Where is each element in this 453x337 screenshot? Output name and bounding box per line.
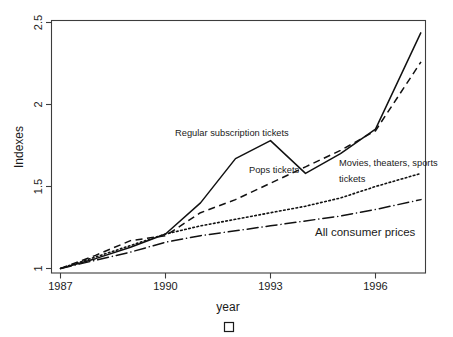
x-tick-label-1993: 1993: [258, 280, 282, 292]
x-axis-ticks: [61, 273, 376, 279]
x-tick-label-1987: 1987: [48, 280, 72, 292]
y-axis-tick-labels: 2.5 2 1.5 1: [32, 15, 44, 272]
y-tick-label-1: 1: [32, 265, 44, 271]
series-label-pops-tickets: Pops tickets: [249, 165, 299, 175]
y-tick-label-2: 2: [32, 101, 44, 107]
y-axis-ticks: [46, 23, 52, 269]
series-label-movies-theaters-sports-line2: tickets: [339, 174, 366, 184]
x-tick-label-1990: 1990: [153, 280, 177, 292]
series-line-movies-theaters-sports-tickets: [61, 173, 422, 268]
line-chart-canvas: 2.5 2 1.5 1 Indexes 1987 1990 1993 1996 …: [0, 0, 453, 337]
x-axis-title: year: [216, 300, 239, 314]
chart-figure: 2.5 2 1.5 1 Indexes 1987 1990 1993 1996 …: [0, 0, 453, 337]
y-tick-label-1.5: 1.5: [32, 179, 44, 194]
x-axis-tick-labels: 1987 1990 1993 1996: [48, 280, 387, 292]
series-label-movies-theaters-sports: Movies, theaters, sports: [339, 158, 438, 168]
x-tick-label-1996: 1996: [363, 280, 387, 292]
y-axis-title: Indexes: [12, 126, 26, 168]
empty-square-marker-icon: [225, 323, 234, 332]
series-label-all-consumer-prices: All consumer prices: [315, 226, 416, 238]
y-tick-label-2.5: 2.5: [32, 15, 44, 30]
series-label-regular-subscription-tickets: Regular subscription tickets: [175, 128, 289, 138]
